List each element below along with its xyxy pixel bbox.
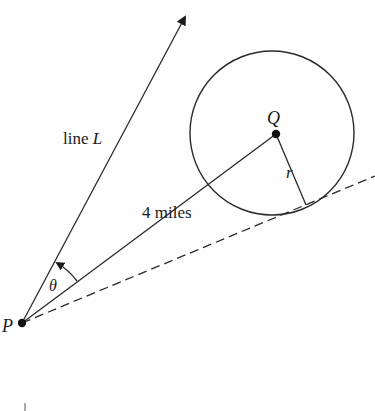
diagram-canvas: line L 4 miles Q r θ P — [0, 0, 375, 411]
geometry-diagram: line L 4 miles Q r θ P — [0, 0, 375, 411]
point-label-p: P — [1, 316, 13, 336]
point-q — [272, 130, 280, 138]
distance-label: 4 miles — [142, 203, 192, 222]
point-p — [18, 319, 26, 327]
radius-label: r — [286, 163, 293, 182]
segment-pq — [22, 134, 276, 323]
tangent-line-dashed — [22, 176, 375, 323]
angle-label-theta: θ — [49, 277, 57, 294]
angle-arc — [57, 263, 77, 281]
center-label-q: Q — [267, 108, 280, 128]
line-l — [22, 17, 185, 323]
line-l-label: line L — [63, 129, 102, 148]
